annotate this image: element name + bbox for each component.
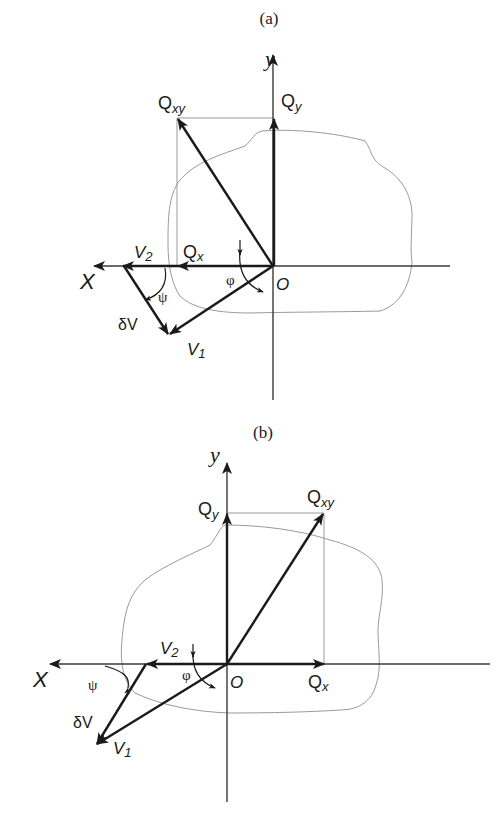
panel-a-caption: (a) <box>260 9 279 28</box>
panel-b-psi-label: ψ <box>88 677 98 693</box>
panel-a-phi-label: φ <box>226 272 235 288</box>
panel-b-qy-label: Qy <box>198 499 220 522</box>
panel-a: (a) y X O Qxy Qy Qx V2 V1 δV φ ψ <box>79 9 450 400</box>
panel-b-qxy-label: Qxy <box>307 487 336 510</box>
panel-b-region-outline <box>121 525 382 713</box>
panel-a-region-outline <box>168 130 412 313</box>
panel-b-y-label: y <box>208 442 220 467</box>
panel-b-vector-dv <box>97 664 146 744</box>
panel-a-v2-label: V2 <box>134 243 153 264</box>
panel-b: (b) y X O Qxy Qy Qx V2 V1 δV φ ψ <box>32 423 490 802</box>
panel-b-origin-label: O <box>230 673 243 692</box>
panel-a-v1-label: V1 <box>187 340 206 361</box>
panel-b-caption: (b) <box>253 423 273 442</box>
panel-b-v2-label: V2 <box>160 639 179 660</box>
panel-a-qy-label: Qy <box>281 91 303 114</box>
panel-a-psi-label: ψ <box>158 289 168 305</box>
panel-b-v1-label: V1 <box>113 739 132 760</box>
figure-canvas: (a) y X O Qxy Qy Qx V2 V1 δV φ ψ (b <box>0 0 502 817</box>
panel-b-phi-label: φ <box>182 667 191 683</box>
panel-a-dv-label: δV <box>118 316 138 333</box>
panel-a-x-label: X <box>79 269 96 294</box>
panel-b-vector-qxy <box>227 514 323 664</box>
panel-a-qxy-label: Qxy <box>158 93 187 116</box>
panel-b-qx-label: Qx <box>308 672 329 694</box>
panel-a-y-label: y <box>263 46 275 71</box>
panel-b-vector-v1 <box>97 664 227 744</box>
panel-a-qx-label: Qx <box>183 242 204 264</box>
panel-b-x-label: X <box>32 667 49 692</box>
panel-a-origin-label: O <box>276 275 289 294</box>
panel-b-dv-label: δV <box>73 714 93 731</box>
